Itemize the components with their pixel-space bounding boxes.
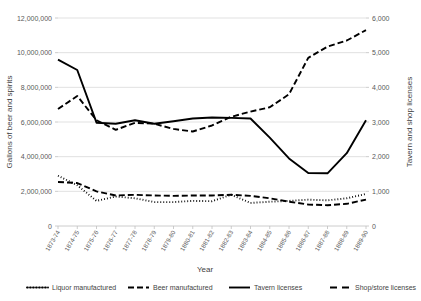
x-axis-tick-label: 1882-83: [217, 229, 235, 253]
chart-container: 02,000,0004,000,0006,000,0008,000,00010,…: [0, 0, 421, 301]
left-axis-tick-label: 12,000,000: [17, 15, 52, 22]
legend-label: Liquor manufactured: [52, 284, 116, 292]
x-axis-tick-label: 1881-82: [198, 229, 216, 253]
left-axis-tick-label: 8,000,000: [21, 84, 52, 91]
series-line-2: [58, 60, 366, 174]
series-line-1: [58, 30, 366, 131]
legend-item[interactable]: Shop/store licenses: [330, 284, 417, 292]
legend-item[interactable]: Tavern licenses: [229, 284, 303, 291]
x-axis-tick-label: 1875-76: [82, 229, 100, 253]
right-axis-tick-label: 0: [372, 223, 376, 230]
x-axis-tick-label: 1876-77: [101, 229, 119, 253]
x-axis-tick-marks: [58, 226, 366, 229]
right-axis-tick-label: 3,000: [372, 119, 390, 126]
x-axis-tick-label: 1885-86: [275, 229, 293, 253]
x-axis-tick-label: 1878-79: [140, 229, 158, 253]
x-axis-tick-label: 1887-88: [313, 229, 331, 253]
x-axis-tick-label: 1888-89: [332, 229, 350, 253]
legend-label: Tavern licenses: [254, 284, 303, 291]
x-axis-tick-labels: 1873-741874-751875-761876-771877-781878-…: [44, 229, 370, 253]
right-axis-tick-label: 5,000: [372, 49, 390, 56]
x-axis-title: Year: [197, 265, 214, 274]
right-axis-tick-marks: [366, 18, 369, 226]
x-axis-tick-label: 1883-84: [236, 229, 254, 253]
x-axis-tick-label: 1889-90: [352, 229, 370, 253]
x-axis-tick-label: 1880-81: [178, 229, 196, 253]
data-series-group: [58, 30, 366, 205]
x-axis-tick-label: 1879-80: [159, 229, 177, 253]
series-line-0: [58, 176, 366, 203]
x-axis-tick-label: 1873-74: [44, 229, 62, 253]
left-axis-tick-label: 6,000,000: [21, 119, 52, 126]
legend-item[interactable]: Liquor manufactured: [27, 284, 116, 292]
chart-legend: Liquor manufacturedBeer manufacturedTave…: [27, 284, 417, 292]
right-axis-tick-labels: 01,0002,0003,0004,0005,0006,000: [372, 15, 390, 230]
left-axis-tick-marks: [55, 18, 58, 226]
right-axis-tick-label: 6,000: [372, 15, 390, 22]
x-axis-tick-label: 1886-87: [294, 229, 312, 253]
right-axis-tick-label: 4,000: [372, 84, 390, 91]
left-axis-tick-label: 0: [48, 223, 52, 230]
right-axis-tick-label: 1,000: [372, 188, 390, 195]
x-axis-tick-label: 1874-75: [63, 229, 81, 253]
x-axis-tick-label: 1884-85: [255, 229, 273, 253]
right-axis-title: Tavern and shop licenses: [405, 77, 414, 167]
right-axis-tick-label: 2,000: [372, 153, 390, 160]
left-axis-title: Gallons of beer and spirits: [5, 76, 14, 169]
left-axis-tick-label: 2,000,000: [21, 188, 52, 195]
line-chart: 02,000,0004,000,0006,000,0008,000,00010,…: [0, 0, 421, 301]
legend-item[interactable]: Beer manufactured: [128, 284, 213, 291]
legend-label: Shop/store licenses: [355, 284, 417, 292]
left-axis-tick-label: 4,000,000: [21, 153, 52, 160]
left-axis-tick-label: 10,000,000: [17, 49, 52, 56]
left-axis-tick-labels: 02,000,0004,000,0006,000,0008,000,00010,…: [17, 15, 52, 230]
x-axis-tick-label: 1877-78: [121, 229, 139, 253]
legend-label: Beer manufactured: [153, 284, 213, 291]
